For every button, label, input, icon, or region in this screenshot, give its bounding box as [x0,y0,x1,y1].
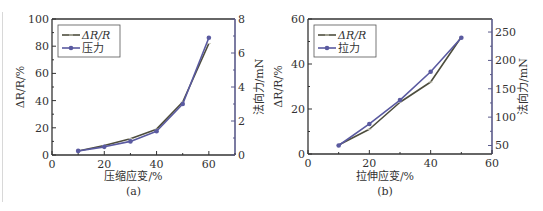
force-marker [128,139,133,144]
legend-label-resistance: ΔR/R [337,29,366,42]
x-tick-label: 0 [305,157,312,170]
legend-label-resistance: ΔR/R [81,29,110,42]
y-tick-label: 20 [291,103,305,116]
y2-axis-title: 法向力/mN [516,58,530,115]
y-tick-label: 100 [28,13,49,26]
series-line-resistance [78,43,209,150]
y-tick-label: 40 [291,58,305,71]
x-tick-label: 40 [424,157,438,170]
y2-axis-title: 法向力/mN [252,58,266,115]
force-marker [102,145,107,150]
panel-caption: (b) [377,185,393,198]
chart-panel-a: 020406002040608010002468ΔR/R/%法向力/mN压缩应变… [14,13,266,198]
y-tick-label: 60 [291,13,305,26]
force-marker [367,122,372,127]
chart-panel-b: 0204060020406050100150200250ΔR/R/%法向力/mN… [272,13,530,198]
y-tick-label: 40 [35,95,49,108]
x-tick-label: 60 [485,157,499,170]
panel-caption: (a) [126,185,141,198]
y2-tick-label: 2 [238,115,245,128]
y-tick-label: 0 [42,149,49,162]
force-marker [180,102,185,107]
legend-label-force: 拉力 [338,41,360,55]
legend-label-force: 压力 [82,42,104,55]
y2-tick-label: 200 [495,54,516,67]
force-marker [336,143,341,148]
y2-tick-label: 50 [495,139,509,152]
chart-canvas: 020406002040608010002468ΔR/R/%法向力/mN压缩应变… [0,0,543,211]
y-tick-label: 60 [35,67,49,80]
y2-tick-label: 250 [495,26,516,39]
legend-force-marker [69,46,74,51]
y-tick-label: 20 [35,122,49,135]
force-marker [459,35,464,40]
x-tick-label: 60 [202,158,216,171]
y2-tick-label: 8 [238,13,245,26]
y-tick-label: 80 [35,40,49,53]
force-marker [207,35,212,40]
x-axis-title: 压缩应变/% [104,169,162,183]
y2-tick-label: 0 [238,149,245,162]
y2-tick-label: 4 [238,81,245,94]
x-tick-label: 0 [49,158,56,171]
x-tick-label: 20 [362,157,376,170]
y2-tick-label: 6 [238,47,245,60]
y-axis-title: ΔR/R/% [14,66,27,108]
legend-force-marker [325,46,330,51]
x-axis-title: 拉伸应变/% [356,169,414,183]
force-marker [154,129,159,134]
force-marker [428,69,433,74]
y2-tick-label: 100 [495,111,516,124]
y-tick-label: 0 [298,148,305,161]
y2-tick-label: 150 [495,83,516,96]
y-axis-title: ΔR/R/% [272,65,285,107]
force-marker [398,98,403,103]
force-marker [76,149,81,154]
